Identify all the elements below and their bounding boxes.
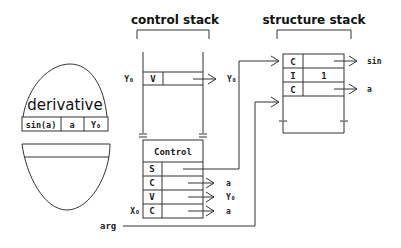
egg-name: derivative	[27, 96, 102, 114]
top-entry-pointer-label: Y₀	[227, 75, 237, 84]
arg-label: arg	[100, 221, 116, 231]
structure-row-1-tag: I	[290, 71, 295, 81]
control-stack-bracket	[137, 30, 209, 39]
control-stack: Y₀ V Y₀ Control S C V C X₀ a Y₀ a	[124, 52, 236, 218]
structure-stack-bracket	[277, 30, 351, 39]
egg-lower-half	[22, 144, 110, 210]
structure-row-1-value: 1	[321, 71, 326, 81]
stack-diagram: control stack structure stack derivative…	[0, 0, 401, 248]
egg-cell-1: a	[69, 120, 74, 130]
control-row-3-side-label: X₀	[130, 207, 140, 216]
egg-cell-0: sin(a)	[26, 120, 57, 130]
structure-row-2-tag: C	[290, 85, 295, 95]
control-stack-title: control stack	[131, 13, 220, 27]
top-entry-tag: V	[150, 74, 156, 84]
arg-link-line	[123, 102, 279, 226]
control-row-3-pointer-label: a	[226, 207, 231, 216]
structure-stack: C I C 1 sin a	[279, 54, 382, 133]
control-row-2-tag: V	[149, 192, 155, 202]
structure-row-0-tag: C	[290, 57, 295, 67]
structure-row-2-pointer-label: a	[367, 85, 372, 94]
control-row-1-tag: C	[149, 178, 154, 188]
top-entry-side-label: Y₀	[124, 75, 134, 84]
structure-row-0-pointer-label: sin	[367, 56, 382, 66]
control-row-1-pointer-label: a	[226, 179, 231, 188]
control-frame-header: Control	[154, 147, 192, 157]
control-row-2-pointer-label: Y₀	[226, 193, 236, 202]
structure-stack-title: structure stack	[262, 13, 366, 27]
control-row-3-tag: C	[149, 206, 154, 216]
derivative-egg: derivative sin(a) a Y₀	[22, 64, 110, 210]
control-row-0-tag: S	[149, 164, 154, 174]
egg-cell-2: Y₀	[91, 120, 101, 130]
